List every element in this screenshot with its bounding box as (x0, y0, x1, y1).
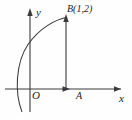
x-axis-label: x (119, 93, 124, 104)
x-axis-arrowhead-icon (114, 86, 121, 91)
y-axis-arrowhead-icon (27, 8, 32, 16)
figure-root: y x O A B(1,2) (0, 0, 132, 120)
coordinate-diagram-svg (0, 0, 132, 120)
arc-curve-path (17, 18, 66, 113)
y-axis-label: y (36, 7, 41, 18)
origin-label: O (32, 90, 40, 101)
point-label-a: A (76, 91, 82, 101)
point-label-b: B(1,2) (67, 4, 92, 14)
